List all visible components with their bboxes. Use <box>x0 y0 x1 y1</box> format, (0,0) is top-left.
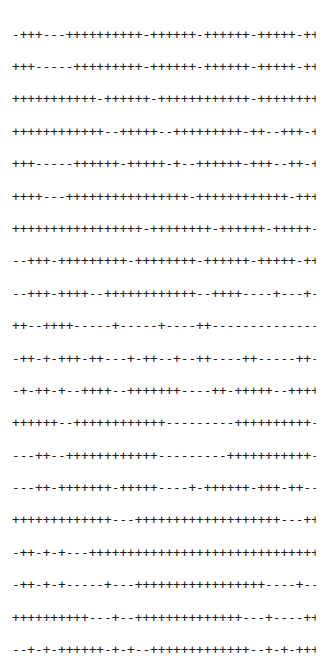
grid-row: ---++-+++++++-+++++----+-++++++-+++-++--… <box>12 483 316 494</box>
grid-row: ++--++++-----+-----+----++--------------… <box>12 321 316 332</box>
grid-row: -++-+-+++-++---+-++--+--++----++-----++-… <box>12 354 316 365</box>
grid-row: --+++-+++++++++-++++++++-++++++-+++++-++… <box>12 256 316 267</box>
grid-row: ++++++++++++--+++++--+++++++++-++--+++-+… <box>12 127 316 138</box>
grid-row: +++++++++++++---+++++++++++++++++++---++… <box>12 515 316 526</box>
grid-row: +++++++++++-++++++-++++++++++++-++++++++ <box>12 94 316 105</box>
grid-row: -++-+-+---++++++++++++++++++++++++++++++… <box>12 548 316 559</box>
grid-row: -+++---++++++++++-++++++-++++++-+++++-++… <box>12 30 316 41</box>
grid-row: ++++++++++---+--++++++++++++++---+----++… <box>12 613 316 624</box>
grid-row: -++-+-+-----+---+++++++++++++++++----+--… <box>12 580 316 591</box>
grid-row: -+-++-+--++++--+++++++----++-+++++--++++… <box>12 386 316 397</box>
grid-row: ++++---++++++++++++++++-++++++++++++-+++… <box>12 192 316 203</box>
grid-row: ---++--++++++++++++---------+++++++++++-… <box>12 451 316 462</box>
grid-row: +++-----++++++-+++++-+--++++++-+++--++-+… <box>12 159 316 170</box>
grid-row: +++++++++++++++++-++++++++-++++++-+++++-… <box>12 224 316 235</box>
grid-row: +++-----+++++++++-++++++-++++++-+++++-++… <box>12 62 316 73</box>
grid-row: ++++++--++++++++++++---------++++++++++-… <box>12 418 316 429</box>
character-grid: -+++---++++++++++-++++++-++++++-+++++-++… <box>12 8 322 657</box>
grid-row: --+++-++++--++++++++++++--++++----+---+- <box>12 289 316 300</box>
grid-row: --+-+-++++++-+-+--+++++++++++++--+-+-+++… <box>12 645 316 656</box>
